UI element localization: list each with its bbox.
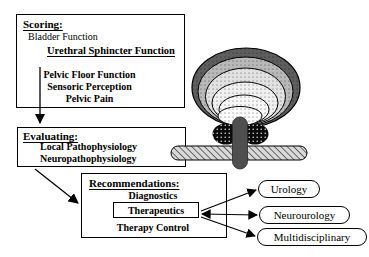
arrow-therapeutics-to-urology: [201, 190, 256, 211]
arrow-therapeutics-to-multidisciplinary: [201, 217, 255, 236]
arrow-therapeutics-neurourology-bidirectional: [202, 214, 257, 215]
flow-arrows: [0, 0, 369, 257]
diagram-canvas: Scoring: Bladder Function Urethral Sphin…: [0, 0, 369, 257]
arrow-evaluating-to-recommendations: [35, 169, 78, 203]
